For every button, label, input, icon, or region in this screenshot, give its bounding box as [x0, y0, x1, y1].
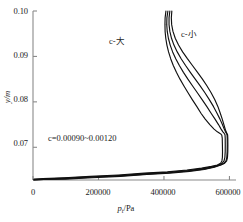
xtick-label-3: 600000 — [203, 187, 243, 197]
tick-marks — [33, 11, 229, 180]
ytick-label-0: 0.10 — [0, 6, 28, 16]
x-axis-title: pt/Pa — [96, 203, 156, 214]
chart-figure: 0.10 0.09 0.08 0.07 0 200000 400000 6000… — [0, 0, 243, 222]
ytick-label-1: 0.09 — [0, 50, 28, 60]
xtick-label-1: 200000 — [73, 187, 123, 197]
y-axis-title-text: y/m — [2, 91, 12, 103]
data-curves — [34, 11, 228, 180]
xtick-label-0: 0 — [23, 187, 43, 197]
y-axis-title: y/m — [2, 77, 12, 117]
ytick-label-3: 0.07 — [0, 138, 28, 148]
curve-2 — [34, 11, 227, 180]
axis-lines — [33, 11, 236, 180]
x-axis-unit: /Pa — [124, 203, 135, 213]
annotation-c-small: c-小 — [181, 27, 197, 39]
annotation-c-large: c-大 — [109, 34, 125, 46]
annotation-c-range: c=0.00090~0.00120 — [48, 133, 116, 143]
xtick-label-2: 400000 — [138, 187, 188, 197]
